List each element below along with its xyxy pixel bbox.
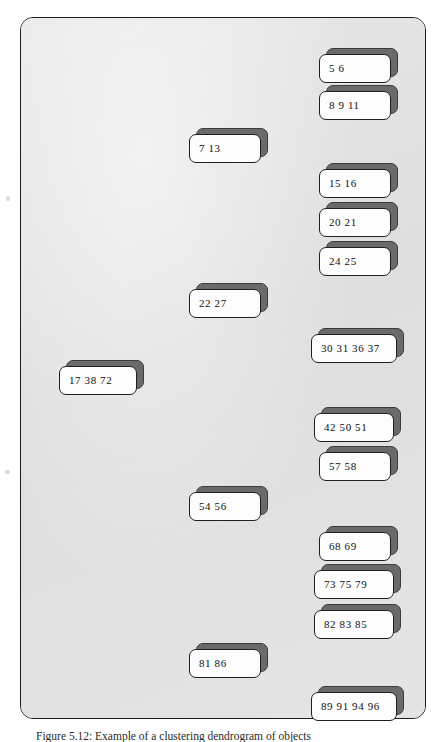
cluster-node: 30 31 36 37 [311,334,397,363]
cluster-node-face: 89 91 94 96 [311,692,397,721]
cluster-node-face: 81 86 [189,649,261,678]
cluster-node-label: 42 50 51 [315,422,367,433]
cluster-node-label: 20 21 [320,217,357,228]
cluster-node-label: 30 31 36 37 [312,343,380,354]
cluster-node: 17 38 72 [59,366,137,395]
cluster-node-label: 81 86 [190,658,227,669]
cluster-node-label: 89 91 94 96 [312,701,380,712]
cluster-node-label: 17 38 72 [60,375,112,386]
cluster-node-face: 20 21 [319,208,391,237]
cluster-node-label: 7 13 [190,143,221,154]
scan-speck [5,470,10,474]
cluster-node: 22 27 [189,289,261,318]
cluster-node-label: 68 69 [320,541,357,552]
cluster-node: 42 50 51 [314,413,394,442]
cluster-node-face: 68 69 [319,532,391,561]
cluster-node-face: 24 25 [319,247,391,276]
cluster-node-label: 22 27 [190,298,227,309]
cluster-node-label: 5 6 [320,63,345,74]
cluster-node: 24 25 [319,247,391,276]
cluster-node-face: 22 27 [189,289,261,318]
cluster-node-label: 82 83 85 [315,619,367,630]
cluster-node: 7 13 [189,134,261,163]
cluster-node: 82 83 85 [314,610,394,639]
cluster-node: 8 9 11 [319,91,391,120]
cluster-node-label: 73 75 79 [315,579,367,590]
cluster-node-face: 15 16 [319,169,391,198]
cluster-node-face: 82 83 85 [314,610,394,639]
cluster-node: 20 21 [319,208,391,237]
cluster-node: 57 58 [319,452,391,481]
cluster-node: 89 91 94 96 [311,692,397,721]
figure-page: 5 68 9 117 1315 1620 2124 2522 2730 31 3… [0,0,446,742]
cluster-node: 54 56 [189,492,261,521]
cluster-node-face: 54 56 [189,492,261,521]
cluster-node-label: 15 16 [320,178,357,189]
cluster-node-face: 42 50 51 [314,413,394,442]
cluster-node-label: 24 25 [320,256,357,267]
cluster-node: 15 16 [319,169,391,198]
cluster-node-face: 8 9 11 [319,91,391,120]
cluster-node: 68 69 [319,532,391,561]
cluster-node: 5 6 [319,54,391,83]
cluster-node-face: 17 38 72 [59,366,137,395]
scan-speck [6,196,10,201]
cluster-node-face: 73 75 79 [314,570,394,599]
cluster-node-face: 5 6 [319,54,391,83]
cluster-node-face: 30 31 36 37 [311,334,397,363]
cluster-node-face: 7 13 [189,134,261,163]
cluster-node-label: 57 58 [320,461,357,472]
cluster-node: 73 75 79 [314,570,394,599]
cluster-node-face: 57 58 [319,452,391,481]
cluster-node: 81 86 [189,649,261,678]
cluster-node-label: 8 9 11 [320,100,360,111]
diagram-frame: 5 68 9 117 1315 1620 2124 2522 2730 31 3… [20,17,426,719]
figure-caption: Figure 5.12: Example of a clustering den… [36,729,426,742]
cluster-node-label: 54 56 [190,501,227,512]
